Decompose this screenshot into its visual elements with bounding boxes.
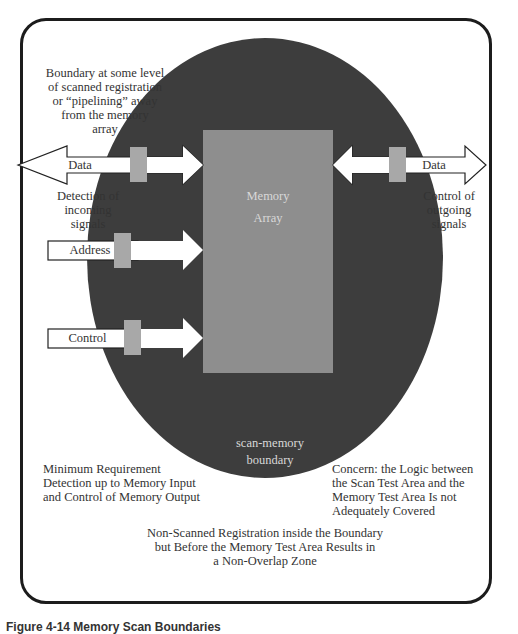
- figure-caption: Figure 4-14 Memory Scan Boundaries: [6, 620, 221, 634]
- data-right-label: Data: [414, 158, 454, 172]
- memory-array-label-line: Array: [203, 207, 333, 229]
- control-register-block: [124, 320, 141, 355]
- boundary-label-line: scan-memory: [225, 435, 315, 452]
- concern-line: Concern: the Logic between: [332, 462, 492, 476]
- min-requirement-line: Detection up to Memory Input: [43, 476, 223, 490]
- non-scanned-line: Non-Scanned Registration inside the Boun…: [130, 526, 400, 540]
- control-note-line: Control of: [418, 189, 480, 203]
- control-label: Control: [60, 331, 115, 345]
- control-note-line: outgoing: [418, 203, 480, 217]
- boundary-note-line: from the memory: [30, 108, 180, 122]
- min-requirement-line: Minimum Requirement: [43, 462, 223, 476]
- memory-array-label: Memory Array: [203, 185, 333, 229]
- detection-note-line: signals: [48, 217, 128, 231]
- non-scanned-line: but Before the Memory Test Area Results …: [130, 540, 400, 554]
- concern-line: the Scan Test Area and the: [332, 476, 492, 490]
- boundary-label-line: boundary: [225, 452, 315, 469]
- minimum-requirement-note: Minimum Requirement Detection up to Memo…: [43, 462, 223, 504]
- boundary-note-line: array: [30, 122, 180, 136]
- min-requirement-line: and Control of Memory Output: [43, 490, 223, 504]
- boundary-note-line: Boundary at some level: [30, 66, 180, 80]
- concern-line: Memory Test Area Is not: [332, 490, 492, 504]
- data-in-register-block: [130, 147, 147, 182]
- control-outgoing-note: Control of outgoing signals: [418, 189, 480, 231]
- concern-line: Adequately Covered: [332, 504, 492, 518]
- boundary-note: Boundary at some level of scanned regist…: [30, 66, 180, 136]
- scan-memory-boundary-label: scan-memory boundary: [225, 435, 315, 469]
- address-label: Address: [60, 243, 120, 257]
- boundary-note-line: or “pipelining” away: [30, 94, 180, 108]
- non-scanned-note: Non-Scanned Registration inside the Boun…: [130, 526, 400, 568]
- concern-note: Concern: the Logic between the Scan Test…: [332, 462, 492, 518]
- boundary-note-line: of scanned registration: [30, 80, 180, 94]
- memory-array-block: [203, 130, 333, 373]
- data-left-label: Data: [60, 158, 100, 172]
- detection-note-line: Detection of: [48, 189, 128, 203]
- control-note-line: signals: [418, 217, 480, 231]
- non-scanned-line: a Non-Overlap Zone: [130, 554, 400, 568]
- data-out-register-block: [389, 147, 406, 182]
- memory-array-label-line: Memory: [203, 185, 333, 207]
- detection-note-line: incoming: [48, 203, 128, 217]
- detection-note: Detection of incoming signals: [48, 189, 128, 231]
